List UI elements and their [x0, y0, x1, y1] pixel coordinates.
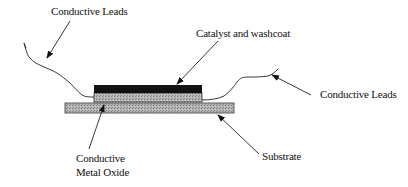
label-conductive-leads-left: Conductive Leads — [51, 5, 128, 18]
label-metal-oxide-line2: Metal Oxide — [76, 166, 129, 179]
arrow-catalyst — [177, 41, 218, 84]
arrow-leads-right — [272, 75, 311, 95]
metal-oxide-layer — [94, 93, 202, 102]
label-conductive-leads-right: Conductive Leads — [320, 88, 397, 101]
substrate-layer — [65, 103, 234, 113]
arrow-leads-left — [47, 21, 70, 58]
sensor-diagram: Conductive Leads Catalyst and washcoat C… — [0, 0, 408, 187]
catalyst-layer — [94, 85, 202, 93]
arrow-substrate — [218, 115, 259, 154]
left-lead-wire — [24, 43, 94, 97]
label-metal-oxide-line1: Conductive — [76, 152, 125, 165]
right-lead-wire — [202, 69, 278, 100]
label-substrate: Substrate — [262, 150, 301, 163]
label-catalyst-washcoat: Catalyst and washcoat — [196, 27, 290, 40]
